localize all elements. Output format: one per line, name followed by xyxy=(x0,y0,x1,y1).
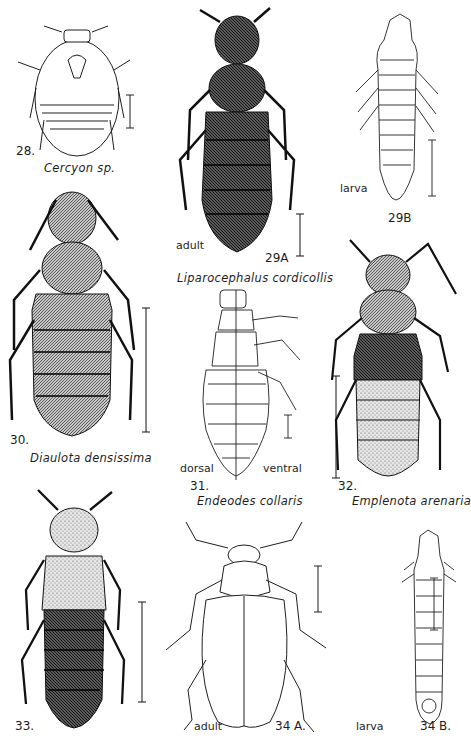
figure-34b-stage: larva xyxy=(356,721,384,733)
figure-32-emplenota xyxy=(332,240,456,478)
figure-29b-number: 29B xyxy=(388,212,412,224)
figure-34b-number: 34 B. xyxy=(420,720,451,732)
figure-29a-stage: adult xyxy=(176,240,204,252)
figure-30-diaulota xyxy=(10,192,150,436)
figure-29b-stage: larva xyxy=(340,183,368,195)
figure-30-caption: Diaulota densissima xyxy=(30,452,152,464)
figure-33 xyxy=(22,490,146,728)
figure-31-endeodes xyxy=(203,290,300,480)
figure-31-caption: Endeodes collaris xyxy=(197,495,303,507)
figure-30-number: 30. xyxy=(10,434,29,446)
figure-28-caption: Cercyon sp. xyxy=(44,162,115,174)
figure-31-dorsal-label: dorsal xyxy=(180,463,214,475)
figure-29b-larva xyxy=(356,14,438,200)
figure-31-number: 31. xyxy=(190,480,209,492)
figure-29a-number: 29A xyxy=(265,252,288,264)
figure-32-number: 32. xyxy=(338,480,357,492)
figure-29a-caption: Liparocephalus cordicollis xyxy=(177,272,333,284)
figure-34a-number: 34 A. xyxy=(275,720,306,732)
figure-28-number: 28. xyxy=(16,145,35,157)
figure-34a-stage: adult xyxy=(194,721,222,733)
figure-29a-liparocephalus xyxy=(180,8,304,256)
figure-34a-adult xyxy=(166,522,326,732)
figure-28-cercyon xyxy=(18,26,134,156)
figure-34b-larva xyxy=(402,530,456,724)
figure-32-caption: Emplenota arenaria xyxy=(352,495,471,507)
figure-31-ventral-label: ventral xyxy=(263,463,302,475)
figure-33-number: 33. xyxy=(15,720,34,732)
